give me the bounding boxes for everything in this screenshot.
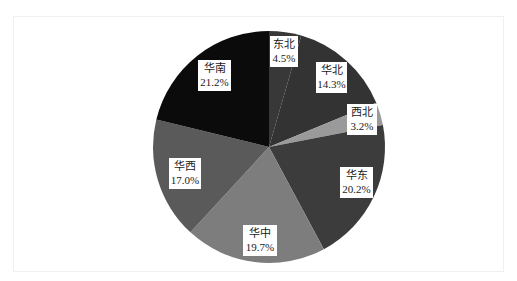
data-label-name: 西北: [348, 105, 376, 119]
data-label-dongbei: 东北 4.5%: [270, 36, 298, 67]
data-label-huabei: 华北 14.3%: [316, 62, 347, 93]
data-label-name: 东北: [271, 37, 297, 51]
data-label-xibei: 西北 3.2%: [347, 104, 377, 135]
data-label-percent: 19.7%: [244, 240, 276, 254]
data-label-name: 华东: [341, 168, 372, 182]
data-label-name: 华西: [170, 159, 200, 173]
data-label-percent: 14.3%: [317, 77, 346, 91]
data-label-percent: 20.2%: [341, 182, 372, 196]
data-label-huazhong: 华中 19.7%: [243, 225, 277, 256]
data-label-percent: 3.2%: [348, 119, 376, 133]
data-label-percent: 4.5%: [271, 51, 297, 65]
data-label-percent: 21.2%: [199, 75, 230, 89]
data-label-huadong: 华东 20.2%: [340, 167, 373, 198]
data-label-percent: 17.0%: [170, 173, 200, 187]
data-label-name: 华北: [317, 63, 346, 77]
data-label-name: 华南: [199, 61, 230, 75]
data-label-huaxi: 华西 17.0%: [169, 158, 201, 189]
data-label-huanan: 华南 21.2%: [198, 60, 231, 91]
data-label-name: 华中: [244, 226, 276, 240]
